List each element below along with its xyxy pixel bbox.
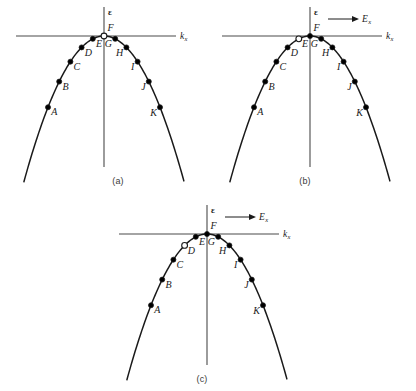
point-label-H: H — [321, 47, 330, 58]
panel-c-caption: (c) — [182, 374, 222, 384]
electron-marker-J — [146, 79, 151, 84]
point-label-E: E — [198, 236, 205, 247]
point-label-I: I — [130, 61, 135, 72]
point-label-D: D — [84, 47, 93, 58]
point-label-K: K — [355, 107, 364, 118]
hole-marker-D — [182, 243, 188, 249]
panel-a: εkxABCDEFGHIJK — [14, 2, 194, 172]
electron-marker-E — [90, 36, 95, 41]
point-label-G: G — [311, 38, 318, 49]
energy-axis-label: ε — [314, 7, 318, 17]
panel-b: εkxExABCDEFGHIJK — [220, 2, 400, 172]
point-label-D: D — [187, 245, 196, 256]
energy-axis-label: ε — [108, 7, 112, 17]
panel-c-plot: εkxExABCDEFGHIJK — [117, 200, 297, 370]
field-arrow-label: Ex — [258, 212, 268, 223]
hole-marker-E — [296, 36, 302, 42]
field-arrow-head — [249, 214, 256, 220]
electron-marker-C — [274, 59, 279, 64]
point-label-F: F — [107, 22, 115, 33]
electron-marker-K — [158, 105, 163, 110]
electron-marker-I — [341, 59, 346, 64]
point-label-C: C — [74, 61, 81, 72]
figure-hole-motion: εkxABCDEFGHIJK (a) εkxExABCDEFGHIJK (b) … — [0, 0, 416, 391]
panel-b-plot: εkxExABCDEFGHIJK — [220, 2, 400, 172]
point-label-A: A — [256, 106, 264, 117]
point-label-E: E — [95, 38, 102, 49]
electron-marker-E — [193, 234, 198, 239]
point-label-C: C — [280, 61, 287, 72]
point-label-H: H — [218, 245, 227, 256]
point-label-C: C — [177, 259, 184, 270]
point-label-B: B — [62, 81, 68, 92]
point-label-J: J — [141, 81, 146, 92]
point-label-I: I — [336, 61, 341, 72]
electron-marker-H — [330, 45, 335, 50]
electron-marker-H — [227, 243, 232, 248]
electron-marker-C — [171, 257, 176, 262]
electron-marker-G — [216, 234, 221, 239]
electron-marker-I — [135, 59, 140, 64]
electron-marker-J — [249, 277, 254, 282]
panel-b-caption: (b) — [285, 176, 325, 186]
electron-marker-B — [263, 79, 268, 84]
panel-a-caption: (a) — [98, 176, 138, 186]
electron-marker-A — [46, 105, 51, 110]
point-label-F: F — [313, 22, 321, 33]
electron-marker-H — [124, 45, 129, 50]
point-label-B: B — [268, 81, 274, 92]
electron-marker-D — [285, 45, 290, 50]
electron-marker-G — [319, 36, 324, 41]
electron-marker-K — [364, 105, 369, 110]
kx-axis-label: kx — [283, 229, 291, 240]
electron-marker-D — [79, 45, 84, 50]
point-label-H: H — [115, 47, 124, 58]
electron-marker-B — [160, 277, 165, 282]
electron-marker-J — [352, 79, 357, 84]
electron-marker-A — [252, 105, 257, 110]
point-label-J: J — [244, 279, 249, 290]
electron-marker-K — [261, 303, 266, 308]
point-label-K: K — [252, 305, 261, 316]
point-label-A: A — [153, 304, 161, 315]
point-label-K: K — [149, 107, 158, 118]
point-label-B: B — [165, 279, 171, 290]
electron-marker-B — [57, 79, 62, 84]
panel-a-plot: εkxABCDEFGHIJK — [14, 2, 194, 172]
point-label-G: G — [208, 236, 215, 247]
point-label-J: J — [347, 81, 352, 92]
field-arrow: Ex — [328, 14, 371, 25]
point-label-G: G — [105, 38, 112, 49]
field-arrow: Ex — [225, 212, 268, 223]
panel-c: εkxExABCDEFGHIJK — [117, 200, 297, 370]
point-label-I: I — [233, 259, 238, 270]
energy-axis-label: ε — [211, 205, 215, 215]
kx-axis-label: kx — [180, 31, 188, 42]
field-arrow-head — [352, 16, 359, 22]
field-arrow-label: Ex — [361, 14, 371, 25]
kx-axis-label: kx — [386, 31, 394, 42]
electron-marker-C — [68, 59, 73, 64]
point-label-F: F — [210, 220, 218, 231]
electron-marker-G — [113, 36, 118, 41]
point-label-D: D — [290, 47, 299, 58]
electron-marker-I — [238, 257, 243, 262]
electron-marker-A — [149, 303, 154, 308]
point-label-E: E — [301, 38, 308, 49]
point-label-A: A — [50, 106, 58, 117]
